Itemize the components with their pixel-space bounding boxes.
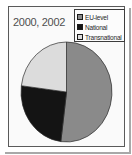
eu-level-swatch-icon [77, 14, 83, 20]
legend-item-transnational: Transnational [77, 32, 124, 42]
legend: EU-level National Transnational [74, 9, 125, 42]
legend-label-eu-level: EU-level [85, 14, 108, 21]
legend-label-national: National [85, 24, 107, 31]
pie-slice-national [21, 86, 66, 142]
national-swatch-icon [77, 24, 83, 30]
scan-artifact-bottom-edge [5, 152, 131, 155]
legend-item-national: National [77, 22, 124, 32]
scan-artifact-right-edge [129, 8, 132, 154]
transnational-swatch-icon [77, 34, 83, 40]
pie-slice-transnational [21, 42, 66, 92]
pie-slice-eu-level [61, 42, 112, 142]
legend-item-eu-level: EU-level [77, 12, 124, 22]
legend-label-transnational: Transnational [85, 34, 122, 41]
